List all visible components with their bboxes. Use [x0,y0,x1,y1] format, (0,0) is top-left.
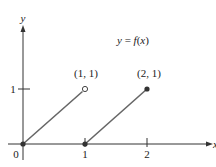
point-label-2-1: (2, 1) [137,67,161,80]
function-graph: y x y = f(x) (1, 1) (2, 1) 0 1 2 1 [0,0,216,167]
segment-1 [23,92,83,145]
y-tick-label-1: 1 [10,83,16,95]
x-axis-arrow-icon [206,142,213,147]
y-axis-arrow-icon [21,25,26,32]
origin-label: 0 [13,148,19,160]
closed-point-2-1 [144,86,149,91]
open-point-1-1 [82,86,87,91]
x-tick-label-2: 2 [144,148,150,160]
y-axis-label: y [20,12,26,24]
closed-point-1-0 [82,141,87,146]
x-axis-label: x [212,138,216,150]
segment-2 [85,89,147,144]
closed-point-origin [20,141,25,146]
point-label-1-1: (1, 1) [74,67,98,80]
x-tick-label-1: 1 [82,148,88,160]
function-label: y = f(x) [116,34,149,47]
